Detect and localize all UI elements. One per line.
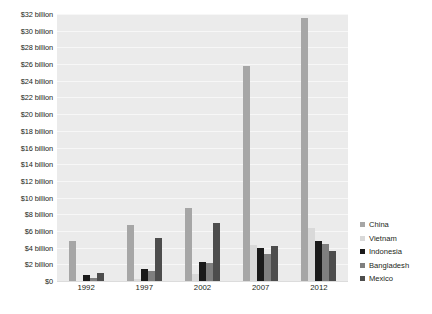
- legend-item-label: Bangladesh: [369, 261, 409, 270]
- bar-bangladesh-2007: [264, 254, 271, 281]
- bar-mexico-1992: [97, 273, 104, 281]
- bar-indonesia-2007: [257, 248, 264, 281]
- x-axis-tick-label: 2007: [252, 283, 269, 292]
- legend-item-label: China: [369, 220, 389, 229]
- legend-item-label: Mexico: [369, 274, 393, 283]
- bar-group-1997: [115, 14, 173, 281]
- y-axis-tick-label: $24 billion: [21, 76, 53, 85]
- legend-item-china[interactable]: China: [360, 218, 432, 232]
- bar-mexico-2002: [213, 223, 220, 281]
- legend-swatch-icon: [360, 222, 365, 227]
- chart-root: $0$2 billion$4 billion$6 billion$8 billi…: [0, 0, 432, 314]
- y-axis-tick-label: $18 billion: [21, 126, 53, 135]
- figure-caption-text: FIGURE 12 · Apparel imports to the Unite…: [22, 308, 234, 309]
- legend-item-vietnam[interactable]: Vietnam: [360, 232, 432, 246]
- y-axis-tick-label: $32 billion: [21, 10, 53, 19]
- x-axis-tick-label: 1992: [77, 283, 94, 292]
- bar-bangladesh-1992: [90, 278, 97, 281]
- bar-group-2007: [232, 14, 290, 281]
- bar-indonesia-2012: [315, 241, 322, 281]
- y-axis-tick-label: $8 billion: [25, 210, 53, 219]
- y-axis: $0$2 billion$4 billion$6 billion$8 billi…: [0, 14, 53, 281]
- x-axis-tick-label: 1997: [136, 283, 153, 292]
- y-axis-tick-label: $28 billion: [21, 43, 53, 52]
- bar-bangladesh-1997: [148, 271, 155, 281]
- gridline: [57, 281, 348, 282]
- bar-bangladesh-2012: [322, 244, 329, 281]
- bar-group-2002: [173, 14, 231, 281]
- bar-china-2007: [243, 66, 250, 281]
- x-axis: 19921997200220072012: [57, 283, 348, 299]
- bar-vietnam-2002: [192, 274, 199, 282]
- y-axis-tick-label: $14 billion: [21, 160, 53, 169]
- legend-item-label: Vietnam: [369, 234, 397, 243]
- chart-legend: ChinaVietnamIndonesiaBangladeshMexico: [360, 218, 432, 286]
- bar-indonesia-2002: [199, 262, 206, 281]
- bar-indonesia-1997: [141, 269, 148, 281]
- bar-mexico-1997: [155, 238, 162, 281]
- y-axis-tick-label: $6 billion: [25, 226, 53, 235]
- bar-china-2012: [301, 18, 308, 281]
- legend-swatch-icon: [360, 236, 365, 241]
- legend-item-mexico[interactable]: Mexico: [360, 272, 432, 286]
- y-axis-tick-label: $20 billion: [21, 110, 53, 119]
- legend-swatch-icon: [360, 263, 365, 268]
- figure-caption: FIGURE 12 · Apparel imports to the Unite…: [22, 300, 322, 309]
- bar-group-1992: [57, 14, 115, 281]
- bar-mexico-2007: [271, 246, 278, 281]
- y-axis-tick-label: $12 billion: [21, 176, 53, 185]
- bar-vietnam-1997: [134, 279, 141, 282]
- plot-area: [57, 14, 348, 281]
- legend-item-bangladesh[interactable]: Bangladesh: [360, 259, 432, 273]
- bar-china-2002: [185, 208, 192, 281]
- bar-mexico-2012: [329, 251, 336, 281]
- y-axis-tick-label: $16 billion: [21, 143, 53, 152]
- legend-swatch-icon: [360, 276, 365, 281]
- bar-groups: [57, 14, 348, 281]
- x-axis-tick-label: 2012: [310, 283, 327, 292]
- legend-swatch-icon: [360, 249, 365, 254]
- x-axis-tick-label: 2002: [194, 283, 211, 292]
- y-axis-tick-label: $0: [45, 277, 53, 286]
- y-axis-tick-label: $10 billion: [21, 193, 53, 202]
- bar-group-2012: [290, 14, 348, 281]
- bar-china-1997: [127, 225, 134, 281]
- legend-item-indonesia[interactable]: Indonesia: [360, 245, 432, 259]
- y-axis-tick-label: $4 billion: [25, 243, 53, 252]
- y-axis-tick-label: $22 billion: [21, 93, 53, 102]
- bar-vietnam-2012: [308, 228, 315, 281]
- bar-vietnam-2007: [250, 245, 257, 281]
- y-axis-tick-label: $30 billion: [21, 26, 53, 35]
- y-axis-tick-label: $26 billion: [21, 60, 53, 69]
- bar-indonesia-1992: [83, 275, 90, 281]
- legend-item-label: Indonesia: [369, 247, 402, 256]
- bar-bangladesh-2002: [206, 263, 213, 281]
- bar-china-1992: [69, 241, 76, 281]
- y-axis-tick-label: $2 billion: [25, 260, 53, 269]
